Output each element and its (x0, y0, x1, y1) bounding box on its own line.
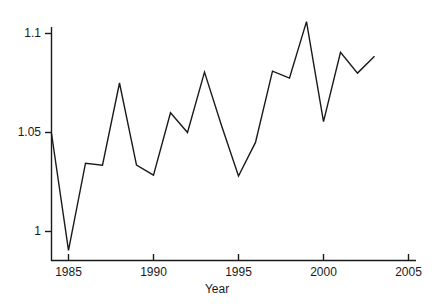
x-tick-marks (69, 254, 409, 261)
y-tick-label-1: 1 (0, 225, 41, 237)
y-tick-label-1-05: 1.05 (0, 126, 41, 138)
y-tick-marks (45, 34, 52, 232)
x-tick-label-1990: 1990 (124, 266, 183, 278)
x-tick-label-1995: 1995 (209, 266, 268, 278)
x-tick-label-2005: 2005 (379, 266, 434, 278)
line-chart: 1.1 1.05 1 1985 1990 1995 2000 2005 Year (0, 0, 434, 307)
x-tick-label-1985: 1985 (39, 266, 98, 278)
y-tick-label-1-1: 1.1 (0, 27, 41, 39)
data-series-line (52, 22, 375, 251)
x-axis-title: Year (0, 283, 434, 295)
x-tick-label-2000: 2000 (294, 266, 353, 278)
plot-area (0, 0, 434, 307)
